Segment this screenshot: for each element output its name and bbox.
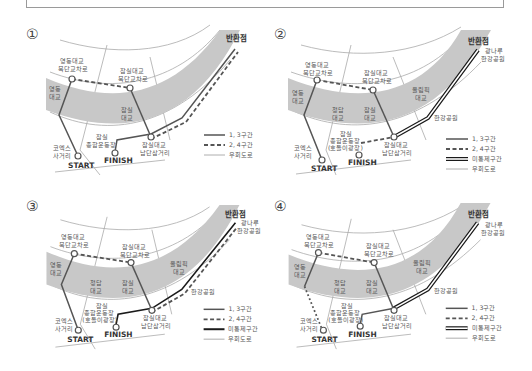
map-label: 북단교차로 (59, 241, 89, 249)
route-map: 반환점 광나루 한강공원 영동대교 북단교차로 잠실대교 북단교차로 영동 대교… (0, 185, 266, 370)
map-label: 청담 (334, 279, 346, 286)
map-label: 한강공원 (481, 229, 505, 236)
map-label: 대교 (121, 114, 133, 122)
waypoint-icon (75, 327, 81, 333)
map-label: 잠실 (122, 279, 134, 286)
route-map: 반환점 영동대교 북단교차로 잠실대교 북단교차로 영동 대교 잠실 대교 코엑… (0, 0, 266, 185)
map-label: 한강공원 (434, 114, 458, 121)
map-label: 대교 (416, 267, 428, 275)
map-label: 북단교차로 (305, 241, 335, 249)
map-label: FINISH (348, 158, 377, 167)
map-label: 남단삼거리 (382, 322, 412, 330)
waypoint-icon (319, 157, 325, 163)
map-panel-2: ② 반환점 광나루 한강공원 영동대교 북단교차로 잠실대교 북단교차로 영동 … (266, 0, 532, 185)
map-label: 대교 (334, 287, 346, 295)
map-label: 대교 (415, 94, 427, 102)
map-label: 잠실대교 (120, 67, 144, 75)
map-label: 잠실대교 (384, 141, 408, 149)
map-label: 종합운동장 (86, 141, 116, 148)
map-label: 잠실 (340, 130, 352, 137)
map-label: 잠실대교 (122, 243, 146, 251)
map-label: 잠실 (364, 106, 376, 113)
map-label: 영동 (49, 85, 61, 92)
map-label: 한강공원 (191, 288, 215, 295)
map-label: 2, 4구간 (472, 314, 496, 322)
start-icon (75, 153, 81, 159)
map-label: 영동대교 (305, 61, 329, 69)
map-label: 잠실 (96, 302, 108, 309)
map-label: 1, 3구간 (229, 131, 253, 139)
map-label: 대교 (50, 269, 62, 277)
map-label: 코엑스 (53, 144, 71, 152)
map-label: 2, 4구간 (229, 141, 253, 149)
map-label: 잠실대교 (364, 69, 388, 77)
map-label: 미통제구간 (472, 155, 502, 163)
map-label: 미통제구간 (472, 324, 502, 332)
map-label: (호돌이광장) (328, 144, 363, 152)
legend: 1, 3구간 2, 4구간 미통제구간 우회도로 (446, 304, 502, 342)
map-label: 잠실 (341, 302, 353, 309)
map-label: 대교 (366, 287, 378, 295)
map-label: 잠실대교 (366, 242, 390, 250)
map-label: 올림픽 (170, 260, 188, 268)
map-label: 대교 (90, 287, 102, 295)
map-label: 2, 4구간 (228, 315, 252, 323)
map-label: 대교 (332, 114, 344, 122)
map-label: (호돌이광장) (82, 316, 117, 324)
map-label: FINISH (104, 330, 132, 339)
map-label: 잠실 (121, 106, 133, 113)
waypoint-icon (391, 134, 397, 140)
map-label: 종합운동장 (330, 309, 360, 316)
map-label: 남단삼거리 (141, 322, 171, 330)
map-label: START (68, 161, 95, 170)
map-label: 미통제구간 (228, 325, 258, 333)
legend: 1, 3구간 2, 4구간 미통제구간 우회도로 (446, 135, 502, 173)
map-label: 우회도로 (472, 165, 496, 173)
map-label: 한강공원 (237, 227, 261, 234)
map-label: FINISH (348, 330, 376, 339)
map-label: 반환점 (226, 209, 247, 219)
map-label: 영동대교 (61, 233, 85, 241)
map-label: 대교 (294, 271, 306, 279)
map-label: 올림픽 (412, 86, 430, 94)
map-line (60, 25, 210, 50)
map-label: 사거리 (53, 152, 71, 160)
map-panel-3: ③ 반환점 광나루 한강공원 영동대교 북단교차로 잠실대교 북단교차로 영동 … (0, 185, 266, 370)
map-label: 광나루 (485, 47, 503, 55)
map-label: 잠실대교 (142, 141, 166, 149)
waypoint-icon (149, 307, 155, 313)
waypoint-icon (148, 134, 154, 140)
map-label: 종합운동장 (84, 309, 114, 316)
waypoint-icon (315, 250, 321, 256)
waypoint-icon (128, 260, 134, 266)
waypoint-icon (69, 76, 75, 82)
map-label: 반환점 (468, 209, 489, 219)
waypoint-icon (371, 260, 377, 266)
map-line (60, 207, 209, 230)
waypoint-icon (314, 77, 320, 83)
map-label: 잠실대교 (384, 314, 408, 322)
map-line (302, 207, 461, 233)
waypoint-icon (71, 251, 77, 257)
map-label: FINISH (104, 156, 133, 165)
map-panel-1: ① 반환점 영동대교 북단교차로 잠실대교 북단교차로 영동 대교 잠실 대교 … (0, 0, 266, 185)
map-label: 1, 3구간 (228, 305, 252, 313)
map-label: 우회도로 (472, 334, 496, 342)
map-label: 북단교차로 (303, 69, 333, 77)
map-label: 코엑스 (55, 317, 73, 325)
map-label: 대교 (122, 287, 134, 295)
map-label: START (311, 164, 338, 173)
map-label: 남단삼거리 (382, 149, 412, 157)
map-label: 북단교차로 (364, 250, 394, 258)
map-label: 대교 (173, 268, 185, 276)
map-label: 잠실 (366, 279, 378, 286)
map-label: 1, 3구간 (472, 135, 496, 143)
map-label: 사거리 (294, 152, 312, 160)
map-label: 대교 (364, 114, 376, 122)
waypoint-icon (370, 87, 376, 93)
map-label: 북단교차로 (58, 65, 88, 73)
map-label: 청담 (332, 106, 344, 113)
map-label: 사거리 (55, 325, 73, 333)
map-line (301, 27, 461, 53)
map-label: 남단삼거리 (140, 149, 170, 157)
